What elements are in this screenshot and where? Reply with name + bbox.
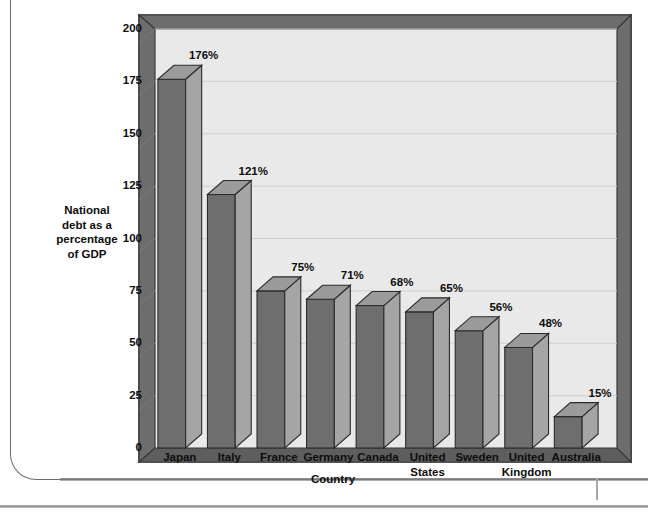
- bar-chart: 2001751501251007550250 Nationaldebt as a…: [0, 0, 648, 512]
- bar-value-label: 121%: [223, 166, 283, 178]
- bar-value-label: 56%: [471, 302, 531, 314]
- bar-value-label: 15%: [570, 388, 630, 400]
- bar-value-labels: 176%121%75%71%68%65%56%48%15%: [0, 0, 648, 512]
- bar-value-label: 176%: [174, 50, 234, 62]
- bar-value-label: 48%: [521, 318, 581, 330]
- bar-value-label: 65%: [421, 283, 481, 295]
